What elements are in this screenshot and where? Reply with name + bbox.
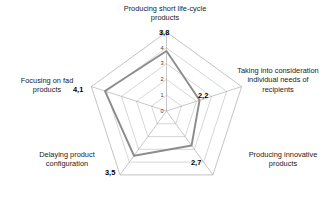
value-label-right: 2,2 (198, 91, 208, 100)
value-label-left: 4,1 (73, 85, 83, 94)
value-label-bottom-left: 3,5 (105, 168, 115, 177)
axis-label-producing-innovative-products: Producing innovative products (235, 150, 331, 169)
radial-tick-3: 3 (156, 60, 164, 66)
radial-tick-2: 2 (156, 76, 164, 82)
radar-spoke-2 (167, 111, 213, 175)
radial-tick-5: 5 (156, 29, 164, 35)
radial-tick-1: 1 (156, 92, 164, 98)
axis-label-producing-short-life-cycle-products: Producing short life-cycle products (98, 4, 232, 23)
radial-tick-0: 0 (156, 108, 164, 114)
radar-chart: Producing short life-cycle products Taki… (0, 0, 333, 198)
radar-spoke-3 (120, 111, 166, 175)
radial-tick-4: 4 (156, 45, 164, 51)
value-label-bottom-right: 2,7 (191, 158, 201, 167)
axis-label-delaying-product-configuration: Delaying product configuration (18, 150, 116, 169)
axis-label-individual-needs-of-recipients: Taking into consideration individual nee… (224, 66, 332, 94)
